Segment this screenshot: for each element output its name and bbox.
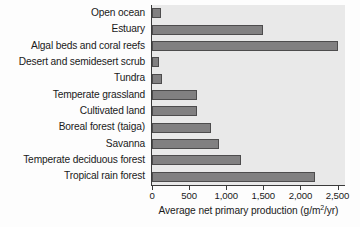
category-label-row: Algal beds and coral reefs — [0, 38, 149, 54]
bar — [152, 106, 197, 116]
bar — [152, 41, 338, 51]
bar-row — [152, 21, 345, 37]
x-tick-label: 500 — [181, 190, 197, 201]
bar-row — [152, 169, 345, 185]
bar — [152, 8, 161, 18]
x-tick-label: 1,000 — [214, 190, 238, 201]
bar — [152, 123, 211, 133]
plot-area — [152, 5, 345, 185]
bar — [152, 74, 162, 84]
category-label: Tropical rain forest — [64, 171, 145, 182]
bar — [152, 172, 315, 182]
bar-row — [152, 120, 345, 136]
bar-row — [152, 103, 345, 119]
category-label: Desert and semidesert scrub — [19, 57, 145, 68]
x-axis-title-tail: /yr) — [324, 205, 338, 216]
category-label-row: Tropical rain forest — [0, 169, 149, 185]
x-axis-title-main: Average net primary production (g/m — [159, 205, 321, 216]
category-label-row: Temperate grassland — [0, 87, 149, 103]
bar — [152, 155, 241, 165]
bar-row — [152, 87, 345, 103]
category-label-row: Savanna — [0, 136, 149, 152]
y-axis-line — [151, 5, 152, 185]
bar — [152, 57, 159, 67]
category-label-row: Desert and semidesert scrub — [0, 54, 149, 70]
bar — [152, 25, 263, 35]
x-tick-label: 0 — [149, 190, 154, 201]
bar-series — [152, 5, 345, 185]
category-label: Tundra — [114, 73, 145, 84]
bar-row — [152, 54, 345, 70]
x-axis-line — [151, 185, 345, 186]
category-axis-labels: Open oceanEstuaryAlgal beds and coral re… — [0, 5, 149, 185]
category-label: Temperate grassland — [53, 90, 145, 101]
category-label: Savanna — [106, 139, 145, 150]
x-tick-label: 2,000 — [289, 190, 313, 201]
category-label: Algal beds and coral reefs — [31, 41, 145, 52]
bar-row — [152, 136, 345, 152]
category-label-row: Boreal forest (taiga) — [0, 120, 149, 136]
category-label-row: Temperate deciduous forest — [0, 152, 149, 168]
x-tick-label: 2,500 — [326, 190, 350, 201]
bar — [152, 90, 197, 100]
x-tick-label: 1,500 — [252, 190, 276, 201]
bar-row — [152, 152, 345, 168]
bar-chart-figure: Open oceanEstuaryAlgal beds and coral re… — [0, 0, 360, 227]
bar-row — [152, 70, 345, 86]
bar — [152, 139, 219, 149]
bar-row — [152, 5, 345, 21]
category-label-row: Estuary — [0, 21, 149, 37]
category-label-row: Open ocean — [0, 5, 149, 21]
category-label: Boreal forest (taiga) — [59, 122, 145, 133]
bar-row — [152, 38, 345, 54]
category-label-row: Tundra — [0, 70, 149, 86]
x-axis-title: Average net primary production (g/m2/yr) — [152, 205, 345, 216]
category-label-row: Cultivated land — [0, 103, 149, 119]
category-label: Cultivated land — [80, 106, 145, 117]
category-label: Open ocean — [91, 8, 145, 19]
category-label: Temperate deciduous forest — [23, 155, 145, 166]
category-label: Estuary — [112, 24, 146, 35]
